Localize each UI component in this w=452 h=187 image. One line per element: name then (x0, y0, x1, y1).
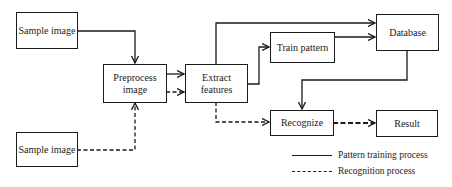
node-preprocess-image: Preprocess image (103, 64, 167, 103)
node-label: Database (389, 27, 426, 39)
edge-extract-recognize (216, 102, 269, 122)
node-label-line1: Preprocess (113, 72, 156, 84)
node-label: Sample image (19, 25, 76, 37)
node-database: Database (376, 14, 439, 51)
dashed-line-swatch (292, 171, 332, 172)
node-label: Recognize (281, 117, 323, 129)
node-label-line1: Extract (202, 72, 231, 84)
edge-extract-train (247, 47, 269, 84)
node-extract-features: Extract features (185, 64, 248, 103)
legend-label: Pattern training process (338, 150, 428, 160)
node-label-line2: image (123, 84, 147, 96)
node-recognize: Recognize (270, 110, 334, 136)
legend-item-solid: Pattern training process (292, 150, 428, 160)
node-sample-image-bottom: Sample image (16, 132, 78, 167)
node-label: Train pattern (277, 42, 329, 54)
legend-label: Recognition process (338, 166, 415, 176)
node-result: Result (376, 110, 438, 137)
node-label: Result (394, 118, 420, 130)
node-sample-image-top: Sample image (16, 12, 78, 49)
node-train-pattern: Train pattern (270, 32, 335, 63)
solid-line-swatch (292, 155, 332, 156)
node-label-line2: features (201, 84, 233, 96)
legend-item-dashed: Recognition process (292, 166, 415, 176)
node-label: Sample image (19, 144, 76, 156)
edge-sample2-preprocess (77, 103, 135, 150)
edge-sample1-preprocess (77, 31, 135, 63)
